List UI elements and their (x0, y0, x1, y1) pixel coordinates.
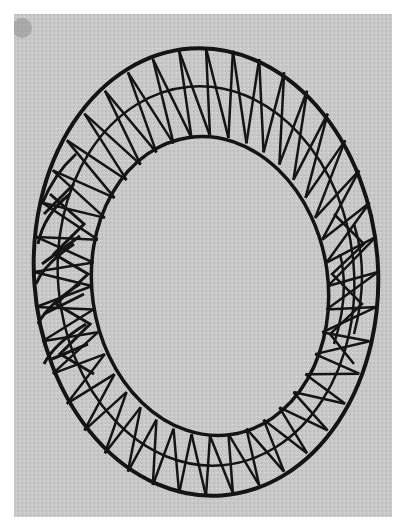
wireframe-ring-figure (14, 14, 392, 517)
photograph (14, 14, 392, 517)
